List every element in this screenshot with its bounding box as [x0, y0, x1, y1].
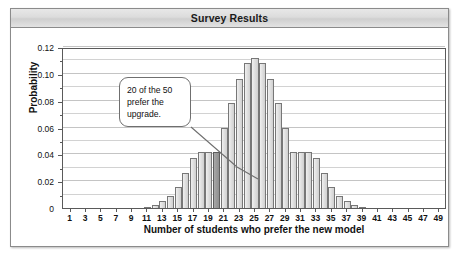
bar: [175, 187, 182, 208]
bar: [228, 103, 235, 208]
x-tick-label: 25: [249, 213, 258, 223]
y-axis-ticks: 00.020.040.060.080.100.12: [11, 48, 62, 209]
x-tick-label: 7: [113, 213, 118, 223]
x-tick-mark: [116, 209, 117, 212]
x-tick-label: 19: [203, 213, 212, 223]
bar: [251, 58, 258, 208]
bar: [290, 152, 297, 208]
x-tick-mark: [331, 209, 332, 212]
x-tick-mark: [131, 209, 132, 212]
x-tick-mark: [223, 209, 224, 212]
bar: [159, 201, 166, 208]
y-tick-label: 0.12: [37, 43, 54, 53]
x-tick-label: 49: [434, 213, 443, 223]
x-tick-mark: [239, 209, 240, 212]
x-tick-label: 13: [157, 213, 166, 223]
bar: [282, 128, 289, 209]
bar: [351, 205, 358, 208]
x-tick-label: 1: [67, 213, 72, 223]
plot-wrapper: Probability 00.020.040.060.080.100.12 20…: [11, 28, 448, 246]
x-tick-mark: [346, 209, 347, 212]
bar: [298, 152, 305, 208]
x-tick-mark: [162, 209, 163, 212]
x-tick-label: 29: [280, 213, 289, 223]
x-tick-mark: [85, 209, 86, 212]
x-tick-mark: [208, 209, 209, 212]
x-tick-mark: [193, 209, 194, 212]
bar: [359, 207, 366, 208]
bar: [244, 63, 251, 208]
x-tick-mark: [300, 209, 301, 212]
bar: [328, 187, 335, 208]
x-tick-label: 39: [357, 213, 366, 223]
y-tick-label: 0.10: [37, 70, 54, 80]
x-tick-mark: [423, 209, 424, 212]
y-tick-label: 0.04: [37, 150, 54, 160]
x-tick-mark: [362, 209, 363, 212]
x-tick-mark: [177, 209, 178, 212]
chart-panel: Survey Results Probability 00.020.040.06…: [10, 8, 449, 247]
bar: [167, 196, 174, 208]
gridline: [63, 46, 445, 47]
bar: [190, 158, 197, 208]
x-tick-label: 5: [98, 213, 103, 223]
x-tick-label: 21: [219, 213, 228, 223]
x-tick-label: 41: [372, 213, 381, 223]
x-tick-label: 9: [129, 213, 134, 223]
bar: [259, 63, 266, 208]
x-tick-label: 3: [83, 213, 88, 223]
bar: [198, 152, 205, 208]
bar: [205, 152, 212, 208]
x-tick-mark: [408, 209, 409, 212]
chart-title-bar: Survey Results: [11, 9, 448, 28]
x-tick-label: 17: [188, 213, 197, 223]
x-tick-mark: [392, 209, 393, 212]
x-tick-mark: [269, 209, 270, 212]
bar: [321, 173, 328, 208]
bar: [344, 201, 351, 208]
bar: [305, 152, 312, 208]
page-title: Survey Results: [11, 9, 448, 27]
x-tick-mark: [100, 209, 101, 212]
x-tick-mark: [377, 209, 378, 212]
bar: [221, 128, 228, 209]
bar: [336, 196, 343, 208]
x-tick-label: 43: [388, 213, 397, 223]
chart-figure: Survey Results Probability 00.020.040.06…: [0, 0, 461, 261]
callout-box: 20 of the 50 prefer the upgrade.: [119, 77, 191, 127]
x-tick-mark: [315, 209, 316, 212]
y-tick-label: 0.06: [37, 124, 54, 134]
x-tick-mark: [254, 209, 255, 212]
x-tick-label: 33: [311, 213, 320, 223]
x-tick-mark: [70, 209, 71, 212]
callout-text: 20 of the 50 prefer the upgrade.: [127, 84, 187, 121]
bar: [152, 205, 159, 208]
bar: [267, 79, 274, 208]
bar: [236, 79, 243, 208]
x-axis-label: Number of students who prefer the new mo…: [62, 224, 446, 235]
bar-highlighted: [213, 152, 220, 208]
y-tick-label: 0.08: [37, 97, 54, 107]
x-tick-label: 31: [295, 213, 304, 223]
x-tick-label: 23: [234, 213, 243, 223]
bar: [313, 158, 320, 208]
x-tick-mark: [438, 209, 439, 212]
plot-area: [62, 48, 446, 209]
x-tick-label: 47: [418, 213, 427, 223]
bar: [182, 173, 189, 208]
x-tick-mark: [146, 209, 147, 212]
bar: [275, 103, 282, 208]
bar: [144, 207, 151, 208]
x-tick-label: 11: [142, 213, 151, 223]
x-tick-mark: [285, 209, 286, 212]
x-tick-label: 27: [265, 213, 274, 223]
y-tick-label: 0.02: [37, 177, 54, 187]
x-tick-label: 37: [341, 213, 350, 223]
y-tick-label: 0: [49, 204, 54, 214]
x-tick-label: 35: [326, 213, 335, 223]
x-tick-label: 15: [172, 213, 181, 223]
x-tick-label: 45: [403, 213, 412, 223]
